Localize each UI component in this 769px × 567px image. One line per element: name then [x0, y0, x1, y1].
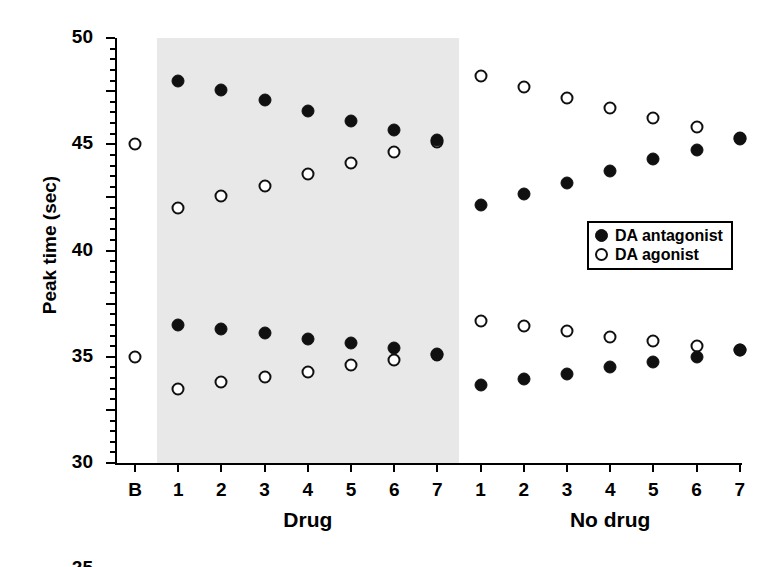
- y-axis-minor-tick: [110, 281, 115, 283]
- y-axis-major-tick: 50: [106, 37, 115, 39]
- data-point: [129, 138, 142, 151]
- data-point: [258, 179, 271, 192]
- y-axis-minor-tick: [110, 260, 115, 262]
- y-axis-minor-tick: [110, 451, 115, 453]
- data-point: [301, 365, 314, 378]
- data-point: [604, 164, 617, 177]
- y-axis-tick-label: 40: [72, 239, 93, 261]
- data-point: [215, 323, 228, 336]
- legend-item-da-agonist: DA agonist: [595, 245, 723, 264]
- y-axis-title: Peak time (sec): [30, 30, 70, 460]
- legend-label-da-agonist: DA agonist: [615, 246, 699, 264]
- data-point: [561, 176, 574, 189]
- y-axis-major-tick: 15: [106, 409, 115, 411]
- y-axis-minor-tick: [110, 80, 115, 82]
- y-axis-minor-tick: [110, 186, 115, 188]
- data-point: [258, 370, 271, 383]
- y-axis-tick-label: 45: [72, 132, 93, 154]
- data-point: [517, 319, 530, 332]
- x-axis-tick-label: 7: [432, 479, 443, 501]
- y-axis-minor-tick: [110, 335, 115, 337]
- x-axis-tick-label: 5: [648, 479, 659, 501]
- y-axis-tick-label: 25: [72, 557, 93, 567]
- y-axis-major-tick: 10: [106, 462, 115, 464]
- y-axis-minor-tick: [110, 133, 115, 135]
- y-axis-minor-tick: [110, 122, 115, 124]
- chart-legend: DA antagonist DA agonist: [587, 221, 733, 270]
- y-axis-minor-tick: [110, 48, 115, 50]
- x-axis-tick-label: 1: [475, 479, 486, 501]
- filled-circle-icon: [595, 229, 608, 242]
- x-axis-tick: [307, 463, 309, 472]
- data-point: [647, 111, 660, 124]
- data-point: [215, 376, 228, 389]
- x-axis-tick-label: 6: [691, 479, 702, 501]
- y-axis-minor-tick: [110, 292, 115, 294]
- x-axis-tick: [436, 463, 438, 472]
- x-axis-tick-label: 6: [389, 479, 400, 501]
- data-point: [388, 342, 401, 355]
- x-axis-tick-label: 7: [735, 479, 746, 501]
- y-axis-minor-tick: [110, 239, 115, 241]
- data-point: [388, 353, 401, 366]
- legend-item-da-antagonist: DA antagonist: [595, 226, 723, 245]
- x-axis-tick-label: 1: [173, 479, 184, 501]
- x-axis-tick: [739, 463, 741, 472]
- data-point: [258, 93, 271, 106]
- data-point: [172, 202, 185, 215]
- y-axis-minor-tick: [110, 377, 115, 379]
- drug-phase-shaded-region: [157, 38, 459, 463]
- x-axis-tick: [220, 463, 222, 472]
- y-axis-minor-tick: [110, 313, 115, 315]
- y-axis-major-tick: 30: [106, 250, 115, 252]
- x-axis-tick: [393, 463, 395, 472]
- y-axis-major-tick: 40: [106, 143, 115, 145]
- data-point: [604, 361, 617, 374]
- data-point: [690, 143, 703, 156]
- y-axis-tick-label: 35: [72, 345, 93, 367]
- y-axis-minor-tick: [110, 165, 115, 167]
- data-point: [431, 347, 444, 360]
- data-point: [561, 91, 574, 104]
- x-axis-tick: [652, 463, 654, 472]
- data-point: [258, 327, 271, 340]
- x-axis-tick: [696, 463, 698, 472]
- data-point: [431, 134, 444, 147]
- y-axis-minor-tick: [110, 218, 115, 220]
- x-axis-tick: [177, 463, 179, 472]
- data-point: [474, 70, 487, 83]
- y-axis-minor-tick: [110, 69, 115, 71]
- data-point: [129, 350, 142, 363]
- data-point: [172, 74, 185, 87]
- x-axis-tick: [134, 463, 136, 472]
- data-point: [172, 382, 185, 395]
- data-point: [733, 344, 746, 357]
- y-axis-minor-tick: [110, 154, 115, 156]
- data-point: [345, 336, 358, 349]
- y-axis-minor-tick: [110, 58, 115, 60]
- x-axis-tick: [350, 463, 352, 472]
- y-axis-minor-tick: [110, 398, 115, 400]
- y-axis-major-tick: 35: [106, 196, 115, 198]
- x-axis-tick: [566, 463, 568, 472]
- open-circle-icon: [595, 248, 608, 261]
- x-axis-tick-label: 4: [303, 479, 314, 501]
- data-point: [388, 145, 401, 158]
- data-point: [647, 334, 660, 347]
- x-axis-group-label: No drug: [570, 508, 650, 532]
- data-point: [733, 132, 746, 145]
- x-axis-line: [115, 463, 742, 465]
- x-axis-group-label: Drug: [283, 508, 332, 532]
- data-point: [604, 330, 617, 343]
- data-point: [301, 168, 314, 181]
- x-axis-tick-label: 3: [562, 479, 573, 501]
- data-point: [474, 379, 487, 392]
- y-axis-minor-tick: [110, 388, 115, 390]
- data-point: [388, 124, 401, 137]
- x-axis-tick: [609, 463, 611, 472]
- x-axis-tick-label: 3: [259, 479, 270, 501]
- y-axis-minor-tick: [110, 345, 115, 347]
- data-point: [517, 80, 530, 93]
- y-axis-major-tick: 25: [106, 303, 115, 305]
- x-axis-tick: [523, 463, 525, 472]
